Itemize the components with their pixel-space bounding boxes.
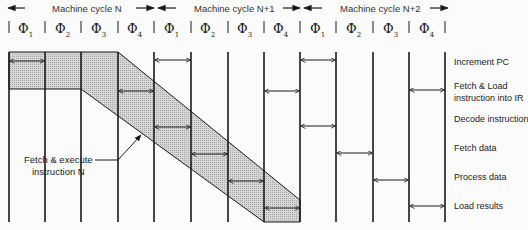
phase-label: Φ4 <box>273 21 288 39</box>
row-label-fetch-data: Fetch data <box>454 142 497 154</box>
phase-index: 1 <box>321 31 325 39</box>
phase-index: 1 <box>175 31 179 39</box>
pipeline-diagram: Machine cycle N Machine cycle N+1 Machin… <box>0 0 528 230</box>
machine-cycle-n-label: Machine cycle N <box>52 3 122 14</box>
phase-symbol: Φ <box>346 21 357 36</box>
phase-label: Φ2 <box>55 21 70 39</box>
phase-index: 2 <box>211 31 215 39</box>
row-label-line: instruction into IR <box>454 92 524 104</box>
phase-index: 3 <box>102 31 106 39</box>
row-label-load-results: Load results <box>454 200 503 212</box>
phase-label: Φ4 <box>127 21 142 39</box>
annotation-line: Fetch & execute <box>24 154 93 166</box>
phase-label: Φ2 <box>346 21 361 39</box>
phase-index: 3 <box>394 31 398 39</box>
phase-symbol: Φ <box>127 21 138 36</box>
row-label-decode-instruction: Decode instruction <box>454 113 528 125</box>
phase-symbol: Φ <box>164 21 175 36</box>
phase-index: 4 <box>138 31 142 39</box>
phase-symbol: Φ <box>383 21 394 36</box>
row-label-line: Fetch & Load <box>454 80 524 92</box>
machine-cycle-n1-label: Machine cycle N+1 <box>194 3 275 14</box>
phase-symbol: Φ <box>273 21 284 36</box>
phase-label: Φ2 <box>200 21 215 39</box>
phase-index: 1 <box>29 31 33 39</box>
phase-symbol: Φ <box>18 21 29 36</box>
phase-symbol: Φ <box>91 21 102 36</box>
phase-label: Φ3 <box>91 21 106 39</box>
phase-label: Φ4 <box>419 21 434 39</box>
phase-label: Φ1 <box>18 21 33 39</box>
machine-cycle-n2-label: Machine cycle N+2 <box>340 3 421 14</box>
phase-symbol: Φ <box>419 21 430 36</box>
phase-index: 2 <box>357 31 361 39</box>
phase-index: 4 <box>284 31 288 39</box>
row-label-increment-pc: Increment PC <box>454 56 509 68</box>
phase-index: 2 <box>66 31 70 39</box>
phase-ticks <box>9 21 445 33</box>
phase-label: Φ1 <box>310 21 325 39</box>
phase-symbol: Φ <box>200 21 211 36</box>
phase-symbol: Φ <box>237 21 248 36</box>
phase-label: Φ3 <box>383 21 398 39</box>
diagram-graphics <box>0 0 528 230</box>
annotation-line: instruction N <box>24 166 93 178</box>
phase-label: Φ1 <box>164 21 179 39</box>
phase-index: 3 <box>248 31 252 39</box>
phase-symbol: Φ <box>310 21 321 36</box>
row-label-process-data: Process data <box>454 171 507 183</box>
phase-symbol: Φ <box>55 21 66 36</box>
annotation-fetch-execute: Fetch & execute instruction N <box>24 154 93 178</box>
phase-index: 4 <box>430 31 434 39</box>
phase-label: Φ3 <box>237 21 252 39</box>
row-label-fetch-load-instruction: Fetch & Load instruction into IR <box>454 80 524 104</box>
